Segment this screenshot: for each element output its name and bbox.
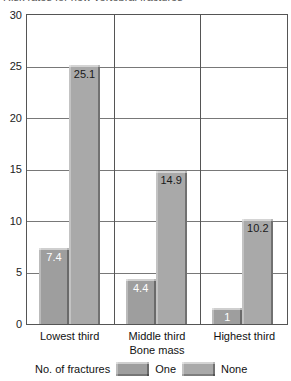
gridline-25 (27, 67, 287, 68)
fracture-risk-bar-chart: Risk rates for new vertebral fractures 0… (0, 0, 291, 381)
bar-value-label: 10.2 (242, 223, 273, 234)
y-tick-label-30: 30 (10, 9, 22, 21)
x-tick-label-middle-third: Middle third (113, 330, 200, 342)
bar-none-highest-third: 10.2 (242, 219, 273, 324)
chart-title-text: Risk rates for new vertebral fractures (3, 0, 287, 3)
section-divider (114, 15, 115, 324)
legend-label-none: None (221, 363, 247, 375)
bar-one-highest-third: 1 (212, 308, 242, 324)
legend-swatch-one (116, 362, 149, 376)
bar-value-label: 4.4 (126, 283, 156, 294)
bar-one-lowest-third: 7.4 (39, 248, 69, 324)
chart-title: Risk rates for new vertebral fractures (3, 0, 287, 5)
y-tick-label-25: 25 (10, 60, 22, 72)
legend: No. of fractures One None (26, 360, 291, 378)
y-tick-label-15: 15 (10, 163, 22, 175)
x-tick-label-highest-third: Highest third (201, 330, 288, 342)
x-axis-tick-labels: Lowest thirdMiddle thirdHighest third (26, 330, 288, 342)
gridline-20 (27, 118, 287, 119)
legend-title: No. of fractures (35, 363, 110, 375)
plot-area: 7.425.14.414.9110.2 (26, 14, 288, 325)
y-tick-label-0: 0 (16, 318, 22, 330)
bar-value-label: 1 (212, 312, 242, 323)
bar-value-label: 7.4 (39, 252, 69, 263)
bar-none-lowest-third: 25.1 (69, 65, 100, 324)
bar-one-middle-third: 4.4 (126, 279, 156, 324)
y-tick-label-20: 20 (10, 112, 22, 124)
bar-value-label: 14.9 (156, 175, 187, 186)
legend-swatch-none (182, 362, 215, 376)
bar-value-label: 25.1 (69, 69, 100, 80)
x-tick-label-lowest-third: Lowest third (26, 330, 113, 342)
x-axis-title: Bone mass (26, 344, 288, 356)
y-tick-label-5: 5 (16, 266, 22, 278)
y-axis: 051015202530 (0, 14, 22, 325)
y-tick-label-10: 10 (10, 215, 22, 227)
legend-label-one: One (155, 363, 176, 375)
section-divider (200, 15, 201, 324)
bar-none-middle-third: 14.9 (156, 171, 187, 324)
